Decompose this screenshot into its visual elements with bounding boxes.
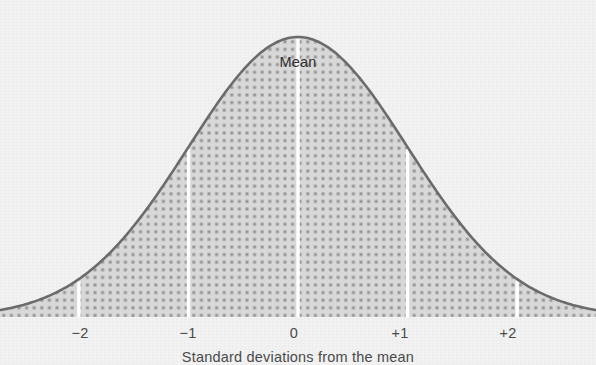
axis-tick-label-plus2: +2 [478, 325, 538, 341]
x-axis-caption: Standard deviations from the mean [0, 349, 596, 365]
axis-tick-label-minus2: −2 [50, 325, 110, 341]
axis-tick-label-zero: 0 [264, 325, 324, 341]
mean-annotation-label: Mean [258, 54, 338, 70]
axis-tick-label-minus1: −1 [158, 325, 218, 341]
curve-area-group [0, 37, 596, 317]
normal-distribution-figure: Mean −2 −1 0 +1 +2 Standard deviations f… [0, 0, 596, 365]
axis-tick-label-plus1: +1 [370, 325, 430, 341]
